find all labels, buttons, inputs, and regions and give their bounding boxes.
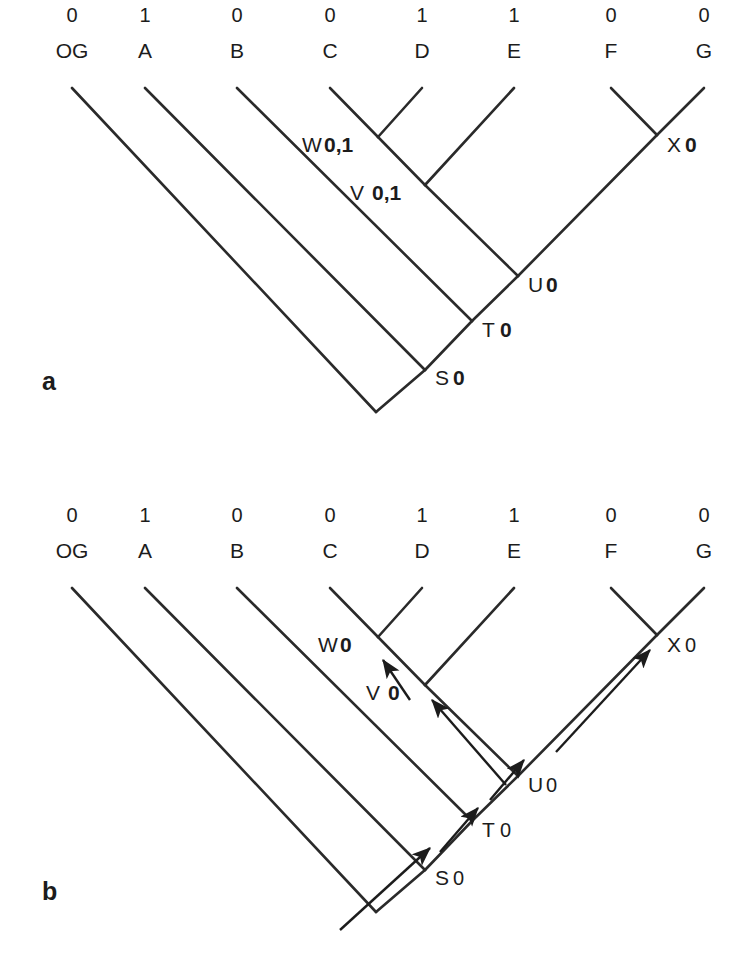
node-letter-u: U bbox=[528, 273, 543, 296]
tip-label-d: D bbox=[414, 539, 429, 562]
tip-label-e: E bbox=[507, 539, 521, 562]
tip-state-og: 0 bbox=[66, 4, 77, 26]
node-value-t: 0 bbox=[500, 318, 512, 341]
tip-state-f: 0 bbox=[605, 4, 616, 26]
panel-label-b: b bbox=[42, 877, 57, 905]
node-letter-x: X bbox=[667, 633, 681, 656]
phylogenetic-tree-svg: 0OG1A0B0C1D1E0F0GW0,1V0,1X0U0T0S0a 0OG1A… bbox=[0, 0, 745, 960]
tip-state-c: 0 bbox=[324, 504, 335, 526]
tip-state-a: 1 bbox=[139, 4, 150, 26]
branch-s-to-root bbox=[376, 370, 425, 412]
branch-t-to-s bbox=[425, 321, 472, 370]
figure-canvas: 0OG1A0B0C1D1E0F0GW0,1V0,1X0U0T0S0a 0OG1A… bbox=[0, 0, 745, 960]
branch-g-to-x bbox=[657, 588, 704, 635]
branch-g-to-x bbox=[657, 88, 704, 135]
node-value-w: 0,1 bbox=[324, 133, 354, 156]
node-letter-t: T bbox=[482, 818, 495, 841]
branch-x-to-u bbox=[518, 635, 657, 776]
tip-state-og: 0 bbox=[66, 504, 77, 526]
node-value-u: 0 bbox=[546, 774, 557, 796]
branch-c-to-w bbox=[330, 588, 378, 637]
tip-state-e: 1 bbox=[508, 4, 519, 26]
tip-label-g: G bbox=[696, 539, 712, 562]
tip-state-b: 0 bbox=[231, 4, 242, 26]
arrow-u-to-x bbox=[556, 650, 650, 752]
tip-state-d: 1 bbox=[416, 504, 427, 526]
branch-u-to-t bbox=[472, 276, 518, 321]
panel-b: 0OG1A0B0C1D1E0F0GW0V0X0U0T0S0b bbox=[42, 504, 712, 930]
tip-label-d: D bbox=[414, 39, 429, 62]
node-letter-w: W bbox=[318, 633, 338, 656]
tip-state-g: 0 bbox=[698, 504, 709, 526]
tip-label-e: E bbox=[507, 39, 521, 62]
branch-t-to-s bbox=[425, 821, 472, 870]
node-letter-u: U bbox=[528, 773, 543, 796]
tip-label-b: B bbox=[230, 39, 244, 62]
tip-label-f: F bbox=[605, 39, 618, 62]
branch-d-to-w bbox=[378, 88, 422, 137]
node-value-v: 0 bbox=[388, 681, 400, 704]
branch-f-to-x bbox=[611, 588, 657, 635]
node-letter-v: V bbox=[366, 681, 380, 704]
tip-label-og: OG bbox=[56, 539, 89, 562]
tip-state-d: 1 bbox=[416, 4, 427, 26]
node-letter-s: S bbox=[435, 366, 449, 389]
node-letter-x: X bbox=[667, 133, 681, 156]
tip-label-c: C bbox=[322, 539, 337, 562]
tip-state-e: 1 bbox=[508, 504, 519, 526]
tip-state-f: 0 bbox=[605, 504, 616, 526]
tip-state-g: 0 bbox=[698, 4, 709, 26]
node-letter-t: T bbox=[482, 318, 495, 341]
panel-a: 0OG1A0B0C1D1E0F0GW0,1V0,1X0U0T0S0a bbox=[42, 4, 712, 412]
branch-w-to-v bbox=[378, 137, 425, 185]
node-value-w: 0 bbox=[340, 633, 352, 656]
branch-x-to-u bbox=[518, 135, 657, 276]
node-letter-s: S bbox=[435, 866, 449, 889]
arrow-s-to-t bbox=[440, 808, 478, 852]
node-value-x: 0 bbox=[685, 634, 696, 656]
tip-label-g: G bbox=[696, 39, 712, 62]
tip-state-c: 0 bbox=[324, 4, 335, 26]
node-value-s: 0 bbox=[453, 366, 465, 389]
branch-v-to-u bbox=[425, 685, 518, 776]
branch-c-to-w bbox=[330, 88, 378, 137]
branch-b-to-t bbox=[237, 88, 472, 321]
node-value-s: 0 bbox=[453, 867, 464, 889]
node-value-t: 0 bbox=[500, 819, 511, 841]
tip-label-c: C bbox=[322, 39, 337, 62]
tip-label-a: A bbox=[138, 539, 152, 562]
node-value-x: 0 bbox=[685, 133, 697, 156]
tip-label-f: F bbox=[605, 539, 618, 562]
tip-label-b: B bbox=[230, 539, 244, 562]
branch-e-to-v bbox=[425, 88, 514, 185]
branch-v-to-u bbox=[425, 185, 518, 276]
tip-label-a: A bbox=[138, 39, 152, 62]
tip-label-og: OG bbox=[56, 39, 89, 62]
branch-f-to-x bbox=[611, 88, 657, 135]
node-letter-w: W bbox=[302, 133, 322, 156]
node-value-v: 0,1 bbox=[372, 181, 402, 204]
tip-state-b: 0 bbox=[231, 504, 242, 526]
node-value-u: 0 bbox=[546, 273, 558, 296]
branch-u-to-t bbox=[472, 776, 518, 821]
panel-label-a: a bbox=[42, 367, 57, 395]
branch-d-to-w bbox=[378, 588, 422, 637]
branch-e-to-v bbox=[425, 588, 514, 685]
arrow-u-to-v bbox=[432, 700, 506, 785]
node-letter-v: V bbox=[350, 181, 364, 204]
tip-state-a: 1 bbox=[139, 504, 150, 526]
